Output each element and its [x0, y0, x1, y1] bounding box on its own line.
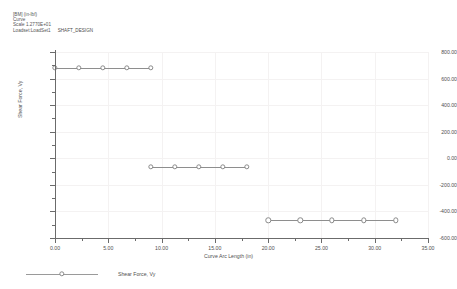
grid-line-horizontal: [55, 132, 428, 133]
y-tick-minor: [52, 145, 55, 146]
grid-line-horizontal: [55, 105, 428, 106]
data-point-marker[interactable]: [393, 218, 398, 223]
y-tick-minor: [52, 118, 55, 119]
x-tick-major: [55, 238, 56, 243]
x-tick-major: [268, 238, 269, 243]
grid-line-horizontal: [55, 211, 428, 212]
grid-line-vertical: [108, 52, 109, 238]
grid-line-vertical: [162, 52, 163, 238]
grid-line-vertical: [375, 52, 376, 238]
data-point-marker[interactable]: [76, 65, 81, 70]
header-loadset-line: Loadset:LoadSet1SHAFT_DESIGN: [13, 28, 93, 33]
data-point-marker[interactable]: [124, 65, 129, 70]
x-tick-minor: [295, 238, 296, 241]
data-point-marker[interactable]: [148, 65, 153, 70]
data-point-marker[interactable]: [196, 164, 201, 169]
y-tick-major: [50, 79, 55, 80]
y-tick-major: [50, 211, 55, 212]
y-tick-minor: [52, 172, 55, 173]
y-tick-minor: [52, 198, 55, 199]
plot-header-block: [BM] (in-lbf) Curve Scale 1.2770E+01 Loa…: [13, 12, 93, 33]
data-point-marker[interactable]: [148, 164, 153, 169]
y-tick-major: [50, 132, 55, 133]
data-point-marker[interactable]: [297, 218, 302, 223]
plot-canvas[interactable]: [55, 52, 428, 238]
header-loadset-value: Loadset:LoadSet1: [13, 28, 51, 33]
y-tick-label: -600.00: [413, 235, 457, 241]
x-tick-label: 10.00: [155, 245, 168, 251]
y-tick-label: 200.00: [413, 129, 457, 135]
y-tick-label: 600.00: [413, 76, 457, 82]
x-tick-label: 15.00: [208, 245, 221, 251]
shear-force-diagram-window: [BM] (in-lbf) Curve Scale 1.2770E+01 Loa…: [0, 0, 457, 289]
y-axis-line: [55, 50, 56, 240]
legend-label: Shear Force, Vy: [118, 271, 155, 277]
y-tick-label: 400.00: [413, 103, 457, 109]
data-point-marker[interactable]: [100, 65, 105, 70]
x-tick-label: 0.00: [50, 245, 60, 251]
x-tick-major: [108, 238, 109, 243]
x-tick-minor: [135, 238, 136, 241]
x-tick-minor: [242, 238, 243, 241]
y-tick-label: 800.00: [413, 49, 457, 55]
y-tick-label: 0.00: [413, 156, 457, 162]
data-point-marker[interactable]: [220, 164, 225, 169]
data-point-marker[interactable]: [329, 218, 334, 223]
grid-line-horizontal: [55, 185, 428, 186]
y-axis-title: Shear Force, Vy: [17, 81, 23, 118]
grid-line-vertical: [268, 52, 269, 238]
y-tick-minor: [52, 225, 55, 226]
y-tick-label: -400.00: [413, 209, 457, 215]
y-tick-major: [50, 52, 55, 53]
x-tick-major: [375, 238, 376, 243]
data-point-marker[interactable]: [265, 218, 270, 223]
y-tick-major: [50, 105, 55, 106]
x-tick-major: [162, 238, 163, 243]
grid-line-horizontal: [55, 158, 428, 159]
x-tick-label: 35.00: [422, 245, 435, 251]
data-point-marker[interactable]: [361, 218, 366, 223]
header-design-name: SHAFT_DESIGN: [58, 28, 93, 33]
x-tick-label: 5.00: [103, 245, 113, 251]
legend-swatch: [26, 272, 98, 276]
y-tick-major: [50, 158, 55, 159]
x-axis-title: Curve Arc Length (in): [0, 253, 457, 259]
x-tick-label: 30.00: [368, 245, 381, 251]
x-tick-minor: [82, 238, 83, 241]
x-tick-minor: [401, 238, 402, 241]
x-tick-major: [428, 238, 429, 243]
y-tick-minor: [52, 65, 55, 66]
x-tick-label: 25.00: [315, 245, 328, 251]
grid-line-vertical: [321, 52, 322, 238]
grid-line-horizontal: [55, 52, 428, 53]
grid-line-vertical: [215, 52, 216, 238]
x-tick-major: [321, 238, 322, 243]
y-tick-major: [50, 185, 55, 186]
x-tick-label: 20.00: [262, 245, 275, 251]
chart-legend: Shear Force, Vy: [26, 271, 155, 277]
data-point-marker[interactable]: [244, 164, 249, 169]
x-tick-major: [215, 238, 216, 243]
grid-line-horizontal: [55, 79, 428, 80]
y-tick-minor: [52, 92, 55, 93]
x-tick-minor: [188, 238, 189, 241]
y-tick-label: -200.00: [413, 182, 457, 188]
data-point-marker[interactable]: [172, 164, 177, 169]
legend-marker-icon: [59, 271, 64, 276]
x-tick-minor: [348, 238, 349, 241]
